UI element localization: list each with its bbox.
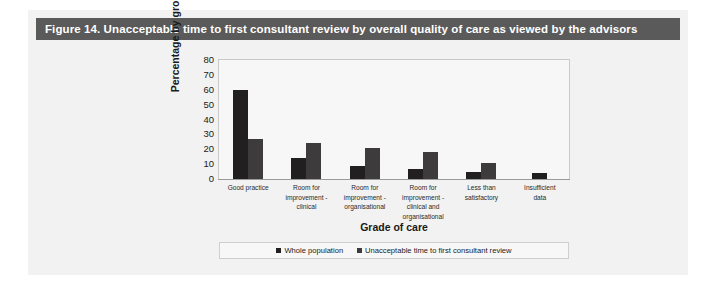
x-axis-tick-label: Room forimprovement -clinical andorganis… [394,183,452,221]
x-axis-tick-line: improvement - [278,193,334,203]
x-axis-tick-line: improvement - [337,193,393,203]
bar-group [219,60,277,179]
x-axis-tick-label: Room forimprovement -organisational [336,183,394,221]
chart-area: Percentage by group 80706050403020100 Go… [36,44,680,266]
x-axis-tick-line: organisational [395,212,451,222]
y-axis-title: Percentage by group [167,0,183,99]
bar [365,148,380,179]
bar-group [511,60,569,179]
figure-caption-text: Figure 14. Unacceptable time to first co… [45,23,637,35]
legend-entry: Unacceptable time to first consultant re… [357,246,511,255]
y-axis-tick-60: 60 [203,85,214,95]
legend-label: Unacceptable time to first consultant re… [365,246,511,255]
x-axis-tick-line: clinical and [395,202,451,212]
legend-label: Whole population [284,246,343,255]
x-axis-tick-labels: Good practiceRoom forimprovement -clinic… [219,183,569,221]
x-axis-tick-line: Room for [278,183,334,193]
x-axis-tick-label: Less thansatisfactory [452,183,510,221]
x-axis-tick-line: data [512,193,568,203]
x-axis-tick-line: improvement - [395,193,451,203]
x-axis-tick-label: Room forimprovement -clinical [277,183,335,221]
x-axis-tick-line: Insufficient [512,183,568,193]
x-axis-tick-line: Good practice [220,183,276,193]
y-axis-tick-50: 50 [203,100,214,110]
bar [291,158,306,179]
bar [466,172,481,179]
y-axis-tick-20: 20 [203,145,214,155]
x-axis-tick-label: Good practice [219,183,277,221]
bar [233,90,248,179]
y-axis-tick-80: 80 [203,55,214,65]
bar-group [336,60,394,179]
y-axis-tick-70: 70 [203,70,214,80]
bar [248,139,263,179]
x-axis-title: Grade of care [219,221,569,233]
bar [481,163,496,179]
y-axis-tick-10: 10 [203,159,214,169]
x-axis-line [218,179,570,180]
figure-panel: Figure 14. Unacceptable time to first co… [28,10,688,275]
legend-swatch [357,248,362,253]
y-axis-tick-40: 40 [203,115,214,125]
plot-bars-container [219,60,569,179]
x-axis-tick-line: organisational [337,202,393,212]
legend-entry: Whole population [276,246,343,255]
bar-group [394,60,452,179]
legend-swatch [276,248,281,253]
bar [306,143,321,179]
figure-caption-bar: Figure 14. Unacceptable time to first co… [36,18,680,40]
x-axis-tick-line: Less than [453,183,509,193]
bar-group [452,60,510,179]
y-axis-tick-0: 0 [209,174,214,184]
chart-legend: Whole populationUnacceptable time to fir… [219,242,569,259]
bar [408,169,423,179]
y-axis-tick-labels: 80706050403020100 [188,60,214,180]
x-axis-tick-label: Insufficientdata [511,183,569,221]
x-axis-tick-line: satisfactory [453,193,509,203]
x-axis-tick-line: Room for [337,183,393,193]
bar [350,166,365,179]
x-axis-tick-line: Room for [395,183,451,193]
bar-group [277,60,335,179]
bar [423,152,438,179]
y-axis-tick-30: 30 [203,130,214,140]
x-axis-tick-line: clinical [278,202,334,212]
